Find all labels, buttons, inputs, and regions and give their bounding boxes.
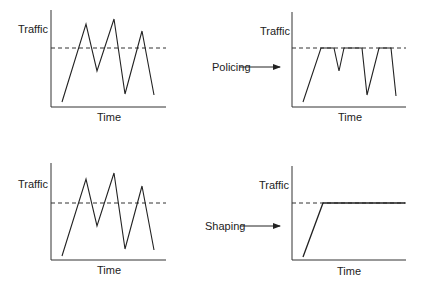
x-axis-label: Time — [338, 111, 362, 123]
y-axis-label: Traffic — [260, 25, 290, 37]
panel-shaped: Traffic Time — [259, 166, 406, 277]
x-axis-label: Time — [97, 111, 121, 123]
y-axis-label: Traffic — [18, 178, 48, 190]
traffic-curve — [303, 48, 396, 102]
panel-original-top: Traffic Time — [18, 10, 166, 123]
x-axis-label: Time — [337, 265, 361, 277]
y-axis-label: Traffic — [18, 23, 48, 35]
traffic-curve — [62, 19, 154, 102]
policing-arrow-group: Policing — [212, 61, 280, 73]
panel-original-bottom: Traffic Time — [18, 163, 166, 276]
x-axis-label: Time — [97, 264, 121, 276]
policing-shaping-diagram: Traffic Time Traffic Time Traffic Time T… — [0, 0, 421, 287]
shaping-arrow-group: Shaping — [205, 220, 280, 232]
shaping-label: Shaping — [205, 220, 245, 232]
traffic-curve — [62, 173, 154, 256]
panel-policed: Traffic Time — [260, 12, 406, 123]
traffic-curve — [303, 203, 405, 257]
y-axis-label: Traffic — [259, 179, 289, 191]
